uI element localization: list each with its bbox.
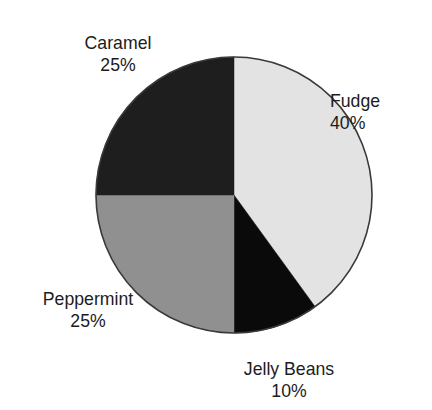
slice-label-jelly-beans: Jelly Beans 10% <box>219 358 359 403</box>
pie-chart-figure: Caramel 25% Fudge 40% Peppermint 25% Jel… <box>0 0 432 410</box>
slice-label-caramel-name: Caramel <box>49 32 187 54</box>
slice-label-peppermint-value: 25% <box>10 310 166 332</box>
slice-label-fudge: Fudge 40% <box>330 90 425 135</box>
slice-label-jelly-beans-value: 10% <box>219 380 359 402</box>
slice-label-peppermint: Peppermint 25% <box>10 288 166 333</box>
slice-label-caramel-value: 25% <box>49 54 187 76</box>
slice-label-peppermint-name: Peppermint <box>10 288 166 310</box>
pie-slice-caramel <box>96 57 234 195</box>
slice-label-caramel: Caramel 25% <box>49 32 187 77</box>
slice-label-fudge-name: Fudge <box>330 90 425 112</box>
slice-label-fudge-value: 40% <box>330 112 425 134</box>
slice-label-jelly-beans-name: Jelly Beans <box>219 358 359 380</box>
